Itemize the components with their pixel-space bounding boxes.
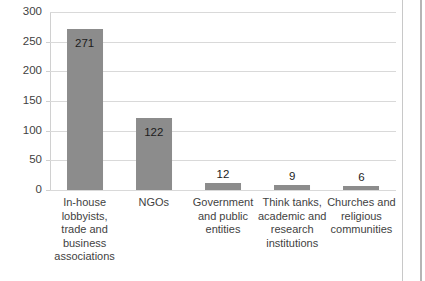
category-label-line: NGOs [119,196,188,210]
category-label-line: religious [327,210,396,224]
y-axis-tick-label: 300 [0,6,42,17]
category-label-line: research [258,223,327,237]
bar-value-label: 12 [217,168,230,180]
x-axis-category-label: Churches andreligiouscommunities [327,196,396,237]
bar[interactable] [67,29,103,190]
bar-slot: 271 [50,12,119,190]
y-axis-tick [46,190,50,191]
category-label-line: associations [50,250,119,264]
x-axis-category-label: Governmentand publicentities [188,196,257,237]
category-label-line: institutions [258,237,327,251]
category-label-line: communities [327,223,396,237]
category-label-line: Government [188,196,257,210]
category-label-line: academic and [258,210,327,224]
category-label-line: lobbyists, [50,210,119,224]
bar[interactable] [343,186,379,190]
bar-value-label: 271 [75,37,94,49]
bar-value-label: 9 [289,170,295,182]
category-label-line: and public [188,210,257,224]
bar-chart: 050100150200250300 2711221296 In-houselo… [0,0,400,281]
y-axis-tick-label: 150 [0,95,42,106]
category-label-line: Think tanks, [258,196,327,210]
plot-area: 2711221296 [50,12,396,190]
x-axis-category-labels: In-houselobbyists,trade andbusinessassoc… [50,196,396,281]
category-label-line: Churches and [327,196,396,210]
bar-slot: 12 [188,12,257,190]
bar-slot: 6 [327,12,396,190]
bar-slot: 9 [258,12,327,190]
x-axis-category-label: In-houselobbyists,trade andbusinessassoc… [50,196,119,264]
y-axis-tick-label: 200 [0,65,42,76]
category-label-line: In-house [50,196,119,210]
y-axis-tick-label: 100 [0,125,42,136]
y-axis-tick-label: 50 [0,154,42,165]
page-edge-border [420,0,422,281]
y-axis-tick-label: 0 [0,184,42,195]
category-label-line: trade and [50,223,119,237]
page-border-line [402,0,403,281]
category-label-line: business [50,237,119,251]
x-axis-category-label: NGOs [119,196,188,210]
bar[interactable] [205,183,241,190]
gridline [50,190,396,191]
y-axis-tick-label: 250 [0,36,42,47]
bar-slot: 122 [119,12,188,190]
x-axis-category-label: Think tanks,academic andresearchinstitut… [258,196,327,250]
bar-value-label: 122 [144,126,163,138]
chart-figure: 050100150200250300 2711221296 In-houselo… [0,0,425,281]
bar-value-label: 6 [358,171,364,183]
category-label-line: entities [188,223,257,237]
bar[interactable] [274,185,310,190]
